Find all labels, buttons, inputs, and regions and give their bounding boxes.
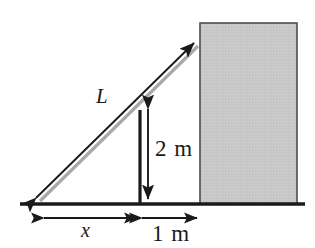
ladder-length-label: L	[96, 86, 108, 107]
wall-block	[200, 23, 297, 204]
ladder-length-arrow	[36, 43, 194, 198]
wall-offset-label: 1 m	[152, 222, 190, 245]
ladder-diagram-figure: L 2 m x 1 m	[0, 0, 315, 248]
base-distance-label: x	[81, 220, 90, 240]
ladder-body-line	[40, 46, 198, 201]
diagram-canvas	[0, 0, 315, 248]
wall-rectangle	[200, 23, 297, 204]
pole-height-label: 2 m	[155, 137, 193, 160]
